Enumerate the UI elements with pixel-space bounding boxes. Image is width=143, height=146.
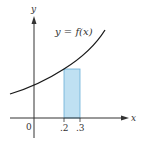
curve-label: y = f(x) [54,26,93,37]
x-axis-label: x [131,113,136,123]
tick-label-0.3: .3 [76,123,85,133]
tick-label-0.2: .2 [60,123,69,133]
x-axis-arrow-icon [121,116,129,121]
y-axis-label: y [30,4,37,14]
origin-label: 0 [26,122,32,132]
diagram-canvas: y = f(x) x y 0 .2 .3 [0,0,143,146]
y-axis-arrow-icon [32,16,37,24]
area-rectangle [64,69,80,118]
function-curve [10,30,105,94]
